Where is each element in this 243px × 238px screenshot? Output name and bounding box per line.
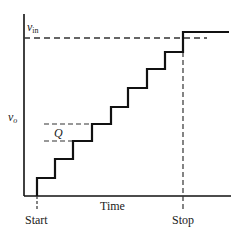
time-axis-label: Time xyxy=(100,199,125,213)
start-label: Start xyxy=(25,213,48,227)
vo-axis-label: vo xyxy=(8,110,17,125)
staircase-diagram: vin vo Q Time Start Stop xyxy=(0,0,243,238)
stop-label: Stop xyxy=(172,213,194,227)
vin-label: vin xyxy=(27,20,39,35)
q-step-label: Q xyxy=(54,126,63,140)
staircase-output xyxy=(37,32,229,196)
